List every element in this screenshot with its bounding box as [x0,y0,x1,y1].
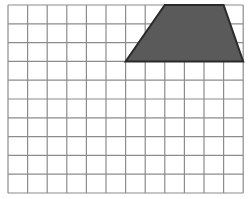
grid-diagram [0,0,248,199]
